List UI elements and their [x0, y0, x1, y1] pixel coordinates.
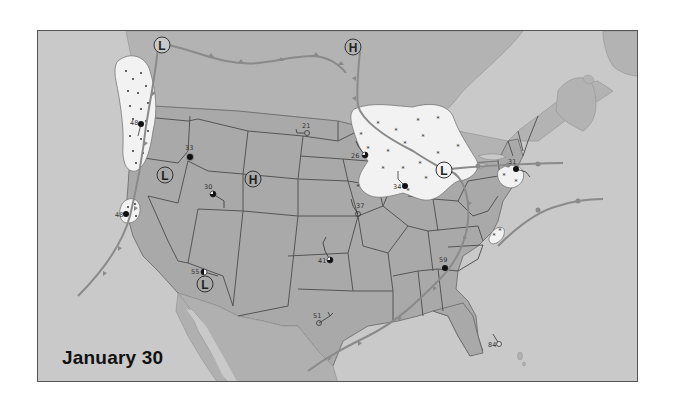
- svg-text:*: *: [456, 143, 460, 151]
- svg-text:*: *: [498, 227, 502, 235]
- svg-text:*: *: [514, 178, 518, 186]
- svg-text:*: *: [421, 133, 425, 141]
- map-date-title: January 30: [62, 347, 163, 369]
- svg-text:*: *: [492, 232, 496, 240]
- svg-text:59: 59: [439, 256, 447, 264]
- svg-text:*: *: [401, 165, 405, 173]
- svg-text:H: H: [349, 41, 358, 55]
- svg-text:L: L: [161, 169, 168, 183]
- svg-text:*: *: [359, 131, 363, 139]
- svg-text:21: 21: [302, 122, 310, 130]
- high-pressure-sask: H: [345, 39, 361, 55]
- svg-text:*: *: [356, 183, 360, 191]
- svg-text:*: *: [394, 127, 398, 135]
- svg-text:*: *: [436, 115, 440, 123]
- svg-text:51: 51: [313, 312, 321, 320]
- svg-text:41: 41: [318, 257, 326, 265]
- svg-text:*: *: [436, 150, 440, 158]
- svg-text:*: *: [424, 175, 428, 183]
- svg-text:37: 37: [356, 202, 364, 210]
- svg-text:H: H: [249, 173, 258, 187]
- svg-text:55: 55: [191, 268, 199, 276]
- svg-text:48: 48: [130, 119, 138, 127]
- svg-text:L: L: [201, 278, 208, 292]
- svg-text:31: 31: [508, 158, 516, 166]
- svg-text:84: 84: [488, 341, 496, 349]
- svg-text:*: *: [416, 117, 420, 125]
- svg-text:*: *: [366, 145, 370, 153]
- low-pressure-nevada: L: [157, 167, 173, 183]
- svg-text:L: L: [158, 39, 165, 53]
- svg-text:33: 33: [185, 144, 193, 152]
- high-pressure-colorado: H: [245, 171, 261, 187]
- svg-text:34: 34: [393, 183, 401, 191]
- svg-text:30: 30: [204, 183, 212, 191]
- svg-text:*: *: [376, 120, 380, 128]
- weather-map: *** *** *** *** *** ** ** **: [37, 30, 638, 382]
- svg-text:*: *: [386, 148, 390, 156]
- map-canvas: *** *** *** *** *** ** ** **: [38, 31, 638, 382]
- low-pressure-michigan: L: [436, 162, 452, 178]
- low-pressure-arizona: L: [197, 276, 213, 292]
- svg-text:*: *: [381, 165, 385, 173]
- svg-text:48: 48: [115, 211, 123, 219]
- svg-text:26: 26: [351, 152, 359, 160]
- svg-text:*: *: [418, 160, 422, 168]
- svg-text:*: *: [502, 172, 506, 180]
- svg-text:L: L: [440, 164, 447, 178]
- low-pressure-bc: L: [154, 37, 170, 53]
